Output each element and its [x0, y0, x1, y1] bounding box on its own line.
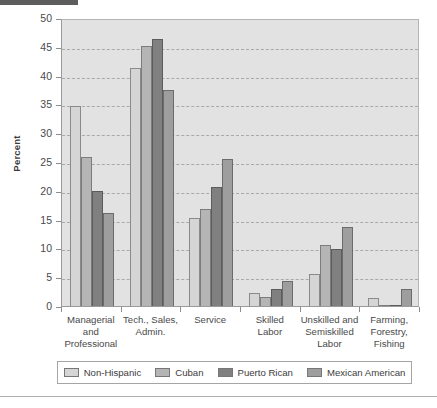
- legend-item-label: Mexican American: [327, 367, 405, 378]
- y-axis-tick-label: 0: [28, 301, 52, 311]
- bar[interactable]: [368, 298, 379, 306]
- bar-chart-figure: Percent 05101520253035404550 Manageriala…: [0, 0, 437, 408]
- bar[interactable]: [379, 305, 390, 306]
- bar-group: [249, 20, 293, 306]
- bar-group: [130, 20, 174, 306]
- legend-swatch-icon: [307, 368, 322, 377]
- x-axis-tick-mark: [61, 307, 62, 312]
- legend-item[interactable]: Non-Hispanic: [64, 367, 142, 378]
- bar[interactable]: [309, 274, 320, 306]
- bar[interactable]: [342, 227, 353, 306]
- y-axis-tick-label: 50: [28, 13, 52, 23]
- legend-item-label: Puerto Rican: [238, 367, 293, 378]
- x-axis-tick-mark: [240, 307, 241, 312]
- y-axis-tick-label: 30: [28, 128, 52, 138]
- bar[interactable]: [163, 90, 174, 306]
- y-axis-tick-label: 15: [28, 215, 52, 225]
- bar[interactable]: [320, 245, 331, 306]
- y-axis-tick-label: 35: [28, 99, 52, 109]
- legend-item-label: Cuban: [175, 367, 203, 378]
- y-axis-tick-label: 25: [28, 157, 52, 167]
- bar[interactable]: [282, 281, 293, 306]
- y-axis-tick-label: 45: [28, 42, 52, 52]
- bar[interactable]: [222, 159, 233, 306]
- x-axis-category-label: Farming,Forestry,Fishing: [353, 314, 425, 350]
- x-axis-tick-mark: [121, 307, 122, 312]
- x-axis-tick-mark: [419, 307, 420, 312]
- bar[interactable]: [103, 213, 114, 306]
- bar[interactable]: [152, 39, 163, 306]
- x-axis-category-label-line: Admin.: [115, 326, 187, 338]
- x-axis-category-label-line: Farming,: [353, 314, 425, 326]
- x-axis-tick-mark: [359, 307, 360, 312]
- bar-group: [70, 20, 114, 306]
- bar[interactable]: [130, 68, 141, 306]
- legend-item[interactable]: Puerto Rican: [218, 367, 293, 378]
- bar[interactable]: [271, 289, 282, 306]
- bar[interactable]: [260, 297, 271, 306]
- legend-swatch-icon: [155, 368, 170, 377]
- legend-swatch-icon: [64, 368, 79, 377]
- bar[interactable]: [390, 305, 401, 306]
- bar[interactable]: [189, 218, 200, 306]
- bar[interactable]: [401, 289, 412, 306]
- x-axis-category-label-line: Forestry,: [353, 326, 425, 338]
- legend-swatch-icon: [218, 368, 233, 377]
- x-axis-tick-mark: [300, 307, 301, 312]
- y-axis-tick-label: 10: [28, 243, 52, 253]
- bars-layer: [62, 20, 418, 306]
- bar-group: [309, 20, 353, 306]
- bar[interactable]: [81, 157, 92, 306]
- x-axis-tick-mark: [180, 307, 181, 312]
- bar[interactable]: [70, 106, 81, 306]
- y-axis-tick-label: 20: [28, 186, 52, 196]
- bar-group: [368, 20, 412, 306]
- chart-legend: Non-HispanicCubanPuerto RicanMexican Ame…: [57, 361, 412, 384]
- legend-item[interactable]: Cuban: [155, 367, 203, 378]
- bar[interactable]: [141, 46, 152, 306]
- bar[interactable]: [200, 209, 211, 306]
- bar[interactable]: [249, 293, 260, 306]
- bar[interactable]: [211, 187, 222, 306]
- legend-item-label: Non-Hispanic: [84, 367, 142, 378]
- x-axis-category-label-line: Professional: [55, 338, 127, 350]
- bar[interactable]: [331, 249, 342, 306]
- y-axis-tick-label: 40: [28, 71, 52, 81]
- bar-group: [189, 20, 233, 306]
- plot-area: [61, 19, 419, 307]
- y-axis-title: Percent: [11, 114, 22, 194]
- legend-item[interactable]: Mexican American: [307, 367, 405, 378]
- bottom-divider: [0, 396, 437, 397]
- bar[interactable]: [92, 191, 103, 306]
- y-axis-tick-label: 5: [28, 272, 52, 282]
- x-axis-category-label-line: Fishing: [353, 338, 425, 350]
